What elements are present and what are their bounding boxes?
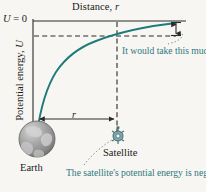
escape-energy-annotation: It would take this much energy for the s…: [122, 46, 206, 57]
y-axis-label-text: Potential energy,: [14, 48, 25, 121]
chart-title-symbol: r: [115, 1, 119, 12]
satellite-icon: [112, 126, 124, 144]
y-axis-label-symbol: U: [14, 40, 25, 48]
y-axis-label: Potential energy, U: [14, 26, 25, 136]
zero-potential-label: U = 0: [3, 13, 27, 24]
negative-energy-annotation: The satellite's potential energy is nega…: [66, 168, 206, 179]
escape-annotation-leader-line: [168, 31, 182, 44]
earth-label: Earth: [20, 162, 43, 173]
satellite-label: Satellite: [103, 147, 137, 158]
chart-title: Distance, r: [72, 1, 119, 12]
gravitational-potential-energy-diagram: Distance, r U = 0 Potential energy, U r …: [0, 0, 206, 192]
zero-potential-symbol: U: [3, 13, 11, 24]
zero-potential-value: = 0: [11, 13, 27, 24]
potential-energy-curve: [37, 23, 176, 133]
distance-symbol-label: r: [72, 110, 76, 121]
chart-title-text: Distance,: [72, 1, 115, 12]
